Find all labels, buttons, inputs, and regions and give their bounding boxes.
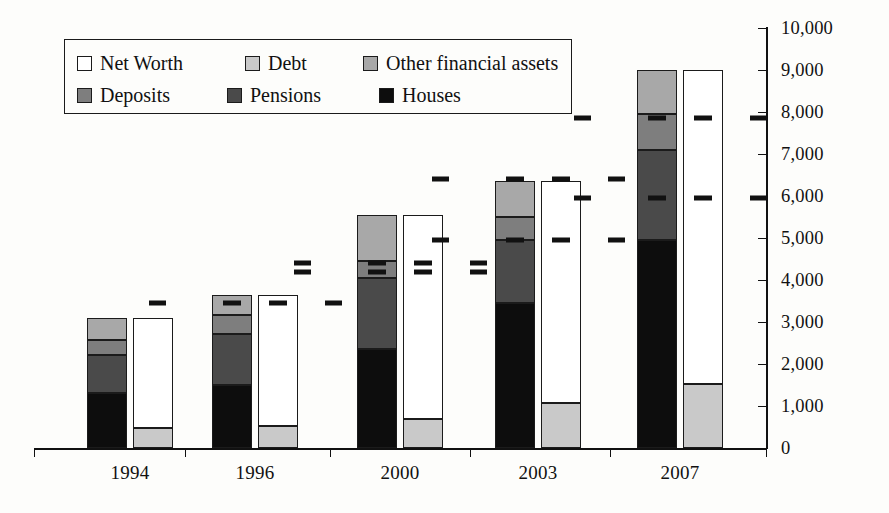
- y-axis-tick-label: 10,000: [781, 18, 833, 39]
- annotation-dash: [470, 269, 487, 274]
- y-axis-tick-label: 9,000: [781, 60, 824, 81]
- x-axis-tick: [766, 448, 767, 457]
- annotation-dash: [608, 238, 625, 243]
- bar-segment-deposits: [87, 340, 127, 354]
- x-axis-line: [34, 448, 767, 450]
- chart-legend: Net WorthDebtOther financial assetsDepos…: [64, 39, 572, 114]
- annotation-dash: [608, 177, 625, 182]
- bar-segment-other: [357, 215, 397, 261]
- bar-segment-houses: [637, 240, 677, 448]
- bar-assets-2003: [495, 181, 535, 448]
- bar-segment-net-worth: [133, 318, 173, 428]
- y-axis-tick: [758, 154, 767, 155]
- legend-label: Net Worth: [100, 53, 183, 73]
- y-axis-tick-label: 8,000: [781, 102, 824, 123]
- legend-item-pensions: Pensions: [227, 85, 379, 105]
- annotation-dash: [368, 261, 386, 266]
- legend-swatch-icon: [245, 56, 260, 71]
- bar-segment-debt: [403, 419, 443, 448]
- x-axis-tick-label: 1994: [110, 462, 149, 484]
- annotation-dash: [694, 196, 712, 201]
- x-axis-tick-label: 2000: [380, 462, 419, 484]
- legend-label: Other financial assets: [386, 53, 558, 73]
- y-axis-tick: [758, 112, 767, 113]
- y-axis-tick-label: 6,000: [781, 186, 824, 207]
- y-axis-tick-label: 7,000: [781, 144, 824, 165]
- bar-liabilities-2000: [403, 215, 443, 448]
- legend-label: Debt: [268, 53, 307, 73]
- y-axis-tick: [758, 28, 767, 29]
- legend-item-other: Other financial assets: [363, 53, 558, 73]
- annotation-dash: [506, 238, 524, 243]
- legend-swatch-icon: [363, 56, 378, 71]
- annotation-dash: [414, 269, 432, 274]
- bar-segment-pensions: [357, 278, 397, 349]
- y-axis-tick-label: 4,000: [781, 270, 824, 291]
- x-axis-tick-label: 2007: [660, 462, 699, 484]
- legend-item-houses: Houses: [379, 85, 461, 105]
- legend-item-net-worth: Net Worth: [77, 53, 245, 73]
- legend-row: Net WorthDebtOther financial assets: [77, 47, 561, 79]
- legend-swatch-icon: [379, 88, 394, 103]
- bar-segment-net-worth: [541, 181, 581, 402]
- annotation-dash: [552, 177, 570, 182]
- x-axis-tick: [330, 448, 331, 457]
- y-axis-tick-label: 1,000: [781, 396, 824, 417]
- bar-segment-houses: [212, 385, 252, 448]
- annotation-dash: [750, 196, 767, 201]
- legend-item-deposits: Deposits: [77, 85, 227, 105]
- bar-segment-debt: [133, 428, 173, 448]
- legend-item-debt: Debt: [245, 53, 363, 73]
- bar-segment-pensions: [212, 334, 252, 384]
- legend-label: Deposits: [100, 85, 170, 105]
- bar-segment-pensions: [87, 355, 127, 393]
- x-axis-tick-label: 1996: [235, 462, 274, 484]
- bar-segment-net-worth: [403, 215, 443, 419]
- bar-segment-houses: [495, 303, 535, 448]
- legend-swatch-icon: [227, 88, 242, 103]
- annotation-dash: [648, 196, 666, 201]
- legend-row: DepositsPensionsHouses: [77, 79, 561, 111]
- annotation-dash: [694, 116, 712, 121]
- bar-assets-2007: [637, 70, 677, 448]
- legend-swatch-icon: [77, 88, 92, 103]
- x-axis-tick: [185, 448, 186, 457]
- annotation-dash: [574, 196, 591, 201]
- annotation-dash: [470, 261, 487, 266]
- bar-segment-other: [495, 181, 535, 217]
- x-axis-tick-label: 2003: [518, 462, 557, 484]
- y-axis-tick: [758, 280, 767, 281]
- annotation-dash: [414, 261, 432, 266]
- annotation-dash: [368, 269, 386, 274]
- x-axis-tick: [470, 448, 471, 457]
- y-axis-tick: [758, 238, 767, 239]
- x-axis-tick: [610, 448, 611, 457]
- annotation-dash: [432, 177, 449, 182]
- bar-liabilities-1996: [258, 295, 298, 448]
- y-axis-tick-label: 0: [781, 438, 790, 459]
- bar-segment-debt: [258, 426, 298, 448]
- bar-liabilities-2003: [541, 181, 581, 448]
- annotation-dash: [269, 301, 287, 306]
- y-axis-tick: [758, 70, 767, 71]
- legend-label: Pensions: [250, 85, 321, 105]
- bar-liabilities-2007: [683, 70, 723, 448]
- bar-assets-1994: [87, 318, 127, 448]
- bar-segment-houses: [87, 393, 127, 448]
- y-axis-tick-label: 5,000: [781, 228, 824, 249]
- annotation-dash: [325, 301, 342, 306]
- legend-swatch-icon: [77, 56, 92, 71]
- y-axis-tick: [758, 406, 767, 407]
- bar-assets-2000: [357, 215, 397, 448]
- annotation-dash: [432, 238, 449, 243]
- legend-label: Houses: [402, 85, 461, 105]
- bar-assets-1996: [212, 295, 252, 448]
- bar-segment-pensions: [495, 240, 535, 303]
- annotation-dash: [149, 301, 166, 306]
- bar-segment-deposits: [212, 315, 252, 334]
- bar-segment-debt: [683, 384, 723, 448]
- annotation-dash: [750, 116, 767, 121]
- bar-segment-other: [87, 318, 127, 341]
- y-axis-tick: [758, 322, 767, 323]
- annotation-dash: [506, 177, 524, 182]
